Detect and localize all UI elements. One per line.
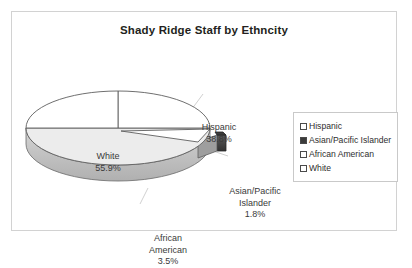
legend-label-african-american: African American [309, 149, 374, 159]
pie-data-label-asian-line1: Asian/Pacific [218, 186, 292, 198]
pie-slice-hispanic [26, 91, 118, 128]
pie-data-label-asian-pacific-islander: Asian/Pacific Islander 1.8% [218, 186, 292, 221]
pie-chart: Hispanic 38.8% White 55.9% Asian/Pacific… [20, 56, 282, 224]
pie-data-label-asian-value: 1.8% [218, 209, 292, 221]
pie-data-label-asian-line2: Islander [218, 198, 292, 210]
pie-data-label-african-line1: African [132, 233, 204, 245]
pie-data-label-african-american: African American 3.5% [132, 233, 204, 268]
pie-data-label-white: White 55.9% [76, 151, 140, 174]
legend-item-hispanic[interactable]: Hispanic [300, 119, 393, 133]
pie-data-label-african-line2: American [132, 245, 204, 257]
legend-swatch-icon-white [300, 165, 307, 172]
legend-item-asian-pacific-islander[interactable]: Asian/Pacific Islander [300, 133, 393, 147]
chart-legend: Hispanic Asian/Pacific Islander African … [293, 112, 398, 182]
legend-label-white: White [309, 163, 331, 173]
pie-data-label-hispanic-value: 38.8% [186, 134, 252, 146]
pie-data-label-hispanic: Hispanic 38.8% [186, 122, 252, 145]
chart-frame: Shady Ridge Staff by Ethncity [11, 11, 397, 231]
pie-data-label-hispanic-name: Hispanic [186, 122, 252, 134]
pie-data-label-white-value: 55.9% [76, 163, 140, 175]
legend-label-hispanic: Hispanic [309, 121, 342, 131]
pie-data-label-african-value: 3.5% [132, 256, 204, 268]
legend-swatch-icon-asian-pacific-islander [300, 137, 307, 144]
legend-item-african-american[interactable]: African American [300, 147, 393, 161]
legend-label-asian-pacific-islander: Asian/Pacific Islander [309, 135, 391, 145]
pie-data-label-white-name: White [76, 151, 140, 163]
legend-swatch-icon-african-american [300, 151, 307, 158]
legend-item-white[interactable]: White [300, 161, 393, 175]
legend-swatch-icon-hispanic [300, 123, 307, 130]
chart-title: Shady Ridge Staff by Ethncity [12, 24, 396, 36]
